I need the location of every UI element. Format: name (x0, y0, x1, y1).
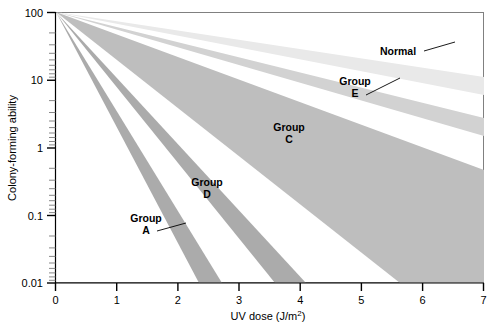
series-label-group-d-line1: Group (191, 176, 223, 188)
y-tick-label-100: 100 (25, 7, 43, 19)
y-axis-title: Colony-forming ability (6, 95, 18, 201)
series-label-normal: Normal (380, 45, 416, 57)
series-label-group-a-line2: A (142, 224, 150, 236)
x-tick-label-7: 7 (480, 294, 486, 306)
chart-svg: 100 10 1 0.1 0.01 Colony-forming ability… (0, 0, 497, 324)
x-tick-label-1: 1 (114, 294, 120, 306)
y-tick-label-0.01: 0.01 (22, 277, 43, 289)
x-tick-label-5: 5 (358, 294, 364, 306)
x-tick-label-3: 3 (236, 294, 242, 306)
y-tick-label-1: 1 (37, 142, 43, 154)
x-tick-label-2: 2 (175, 294, 181, 306)
x-tick-label-4: 4 (297, 294, 303, 306)
series-label-group-e-line2: E (351, 87, 358, 99)
x-axis-title-tail: ) (302, 310, 306, 322)
x-axis-title: UV dose (J/m2) (231, 309, 306, 322)
uv-survival-chart: 100 10 1 0.1 0.01 Colony-forming ability… (0, 0, 497, 324)
x-tick-label-0: 0 (52, 294, 58, 306)
series-label-group-c-line1: Group (273, 121, 305, 133)
y-tick-label-0.1: 0.1 (28, 210, 43, 222)
x-tick-label-6: 6 (420, 294, 426, 306)
x-axis-title-main: UV dose (J/m (231, 310, 298, 322)
series-label-group-c-line2: C (285, 133, 293, 145)
series-label-group-d-line2: D (203, 188, 211, 200)
series-label-group-a-line1: Group (130, 212, 162, 224)
series-label-group-e-line1: Group (339, 75, 371, 87)
y-tick-label-10: 10 (31, 74, 43, 86)
